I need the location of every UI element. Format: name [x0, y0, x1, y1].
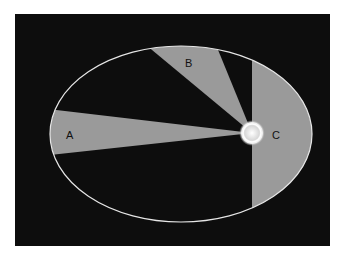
label-c: C: [272, 129, 280, 141]
sectors: [40, 40, 320, 210]
label-a: A: [66, 129, 74, 141]
kepler-diagram: A B C: [0, 0, 344, 254]
label-b: B: [185, 57, 192, 69]
